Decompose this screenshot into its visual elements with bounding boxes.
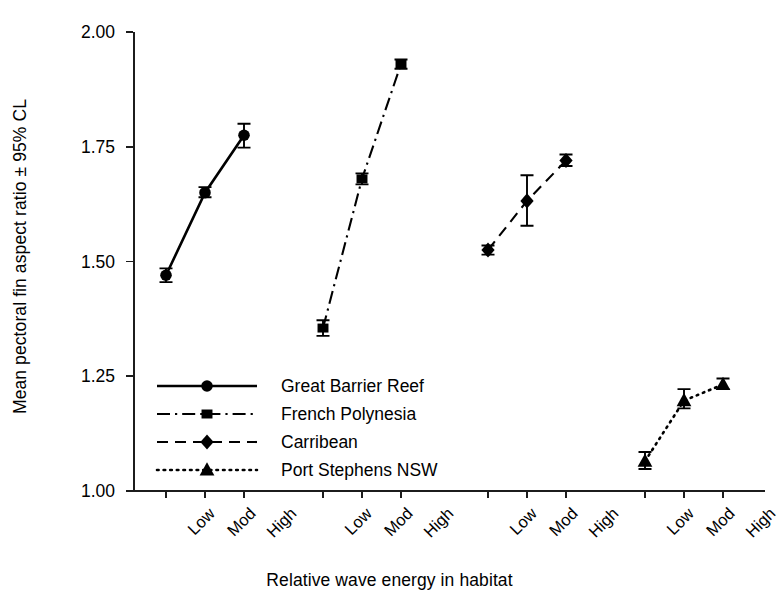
x-axis-line	[133, 490, 765, 492]
series-line	[488, 161, 566, 251]
legend-item-port-stephens-nsw[interactable]: Port Stephens NSW	[155, 456, 438, 484]
y-tick: 1.50	[126, 261, 133, 263]
error-bar	[482, 245, 495, 254]
series-carribean	[481, 153, 572, 258]
data-point-diamond	[559, 153, 572, 168]
data-point-square	[318, 324, 329, 333]
chart-figure: Mean pectoral fin aspect ratio ± 95% CL …	[0, 0, 779, 606]
x-tick-label: Low	[184, 504, 219, 539]
x-axis-title: Relative wave energy in habitat	[0, 570, 779, 591]
legend-key	[155, 457, 259, 483]
error-bar	[317, 320, 330, 336]
x-tick	[361, 490, 363, 498]
y-axis-line	[133, 32, 135, 491]
error-bar	[160, 268, 173, 282]
error-bar	[395, 60, 408, 69]
y-tick-label: 1.00	[81, 481, 115, 502]
diamond-marker	[200, 434, 213, 449]
series-line	[323, 64, 401, 328]
error-bar	[639, 452, 652, 469]
y-tick: 2.00	[126, 31, 133, 33]
series-line	[166, 135, 244, 275]
x-tick-label: Mod	[380, 504, 416, 540]
x-tick-label: High	[263, 504, 300, 541]
data-point-diamond	[481, 242, 494, 257]
chart-legend: Great Barrier ReefFrench PolynesiaCarrib…	[155, 372, 438, 484]
x-tick-label: Mod	[223, 504, 259, 540]
x-tick-label: Low	[341, 504, 376, 539]
y-tick-label: 1.50	[81, 251, 115, 272]
x-tick-label: High	[585, 504, 622, 541]
circle-marker	[201, 380, 213, 392]
x-tick-label: High	[420, 504, 457, 541]
x-tick	[565, 490, 567, 498]
error-bar	[199, 187, 212, 197]
x-tick	[165, 490, 167, 498]
x-tick	[722, 490, 724, 498]
legend-key	[155, 429, 259, 455]
data-point-triangle	[638, 453, 653, 466]
legend-item-great-barrier-reef[interactable]: Great Barrier Reef	[155, 372, 438, 400]
data-point-circle	[160, 269, 172, 281]
data-point-circle	[238, 130, 250, 142]
square-marker	[202, 410, 213, 419]
legend-label: Carribean	[281, 432, 358, 453]
y-axis-title-container: Mean pectoral fin aspect ratio ± 95% CL	[0, 0, 40, 520]
x-tick	[683, 490, 685, 498]
legend-label: Port Stephens NSW	[281, 460, 438, 481]
error-bar	[560, 155, 573, 166]
legend-item-french-polynesia[interactable]: French Polynesia	[155, 400, 438, 428]
data-point-circle	[199, 187, 211, 199]
y-tick: 1.00	[126, 490, 133, 492]
data-point-triangle	[716, 377, 731, 390]
legend-key	[155, 401, 259, 427]
series-line	[645, 385, 723, 462]
x-tick-label: High	[742, 504, 779, 541]
legend-label: French Polynesia	[281, 404, 416, 425]
y-tick: 1.75	[126, 146, 133, 148]
y-tick-label: 1.75	[81, 136, 115, 157]
x-tick	[400, 490, 402, 498]
x-tick	[526, 490, 528, 498]
series-great-barrier-reef	[160, 124, 251, 282]
error-bar	[356, 173, 369, 184]
x-tick-label: Mod	[702, 504, 738, 540]
legend-item-carribean[interactable]: Carribean	[155, 428, 438, 456]
error-bar	[521, 175, 534, 225]
x-tick-label: Mod	[545, 504, 581, 540]
y-tick: 1.25	[126, 375, 133, 377]
x-tick	[204, 490, 206, 498]
error-bar	[678, 389, 691, 408]
y-tick-label: 2.00	[81, 22, 115, 43]
x-tick	[487, 490, 489, 498]
data-point-triangle	[677, 393, 692, 406]
data-point-diamond	[520, 193, 533, 208]
x-tick-label: Low	[663, 504, 698, 539]
legend-label: Great Barrier Reef	[281, 376, 424, 397]
triangle-marker	[200, 462, 215, 475]
x-tick-label: Low	[506, 504, 541, 539]
x-tick	[644, 490, 646, 498]
data-point-square	[396, 60, 407, 69]
series-french-polynesia	[317, 60, 408, 336]
data-point-square	[357, 174, 368, 183]
error-bar	[717, 379, 730, 390]
x-tick	[243, 490, 245, 498]
error-bar	[238, 124, 251, 148]
x-tick	[322, 490, 324, 498]
y-tick-label: 1.25	[81, 366, 115, 387]
legend-key	[155, 373, 259, 399]
y-axis-title: Mean pectoral fin aspect ratio ± 95% CL	[10, 27, 31, 487]
series-port-stephens-nsw	[638, 377, 731, 469]
